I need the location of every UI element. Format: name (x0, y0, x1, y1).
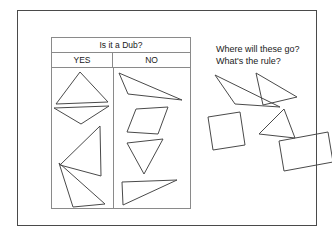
table-header-row: YES NO (52, 53, 190, 68)
thin-obtuse-triangle (119, 73, 182, 100)
column-header-no: NO (113, 53, 190, 67)
classification-table: Is it a Dub? YES NO (51, 37, 191, 209)
slide-frame: Is it a Dub? YES NO Where will these go?… (17, 10, 317, 226)
prompt-line-1: Where will these go? (216, 43, 331, 55)
tilted-rectangle (279, 132, 332, 171)
triangle-pointing-right (256, 73, 297, 105)
unsorted-shapes (204, 69, 332, 179)
wide-flat-triangle-up (56, 72, 108, 104)
large-scalene-triangle (59, 163, 105, 207)
table-title: Is it a Dub? (52, 38, 190, 53)
thin-right-triangle (122, 180, 177, 205)
column-header-yes: YES (52, 53, 113, 67)
thin-triangle-down (54, 106, 109, 124)
yes-column-cell (52, 68, 113, 209)
thin-triangle-pointing-left (215, 75, 280, 107)
no-column-cell (114, 68, 191, 209)
slide-canvas: Is it a Dub? YES NO Where will these go?… (0, 0, 334, 239)
left-pointing-triangle (60, 126, 101, 176)
parallelogram (127, 107, 168, 134)
downward-triangle (127, 139, 163, 174)
unsorted-shapes-group (204, 69, 332, 179)
no-column-shapes (114, 68, 191, 209)
yes-column-shapes (52, 68, 113, 209)
prompt-text: Where will these go? What's the rule? (216, 43, 331, 67)
prompt-line-2: What's the rule? (216, 55, 331, 67)
tilted-square (208, 112, 245, 150)
slim-triangle-middle (259, 109, 295, 138)
